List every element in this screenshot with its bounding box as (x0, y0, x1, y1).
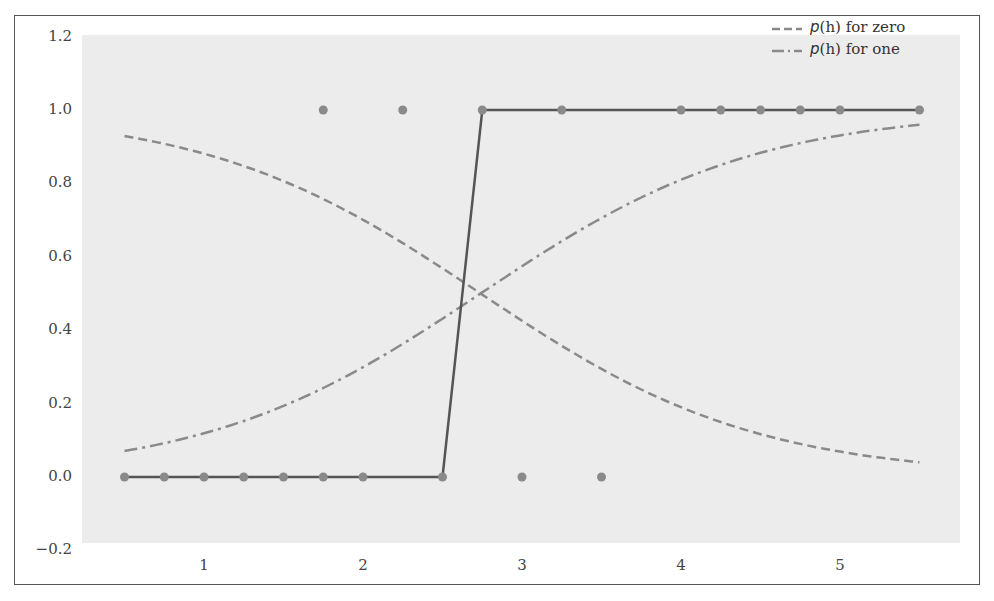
data-point (518, 473, 527, 482)
data-point (319, 473, 328, 482)
x-tick-label: 5 (825, 556, 855, 574)
data-point (756, 106, 765, 115)
y-tick-label: 0.8 (12, 173, 72, 191)
p-one-curve (125, 125, 920, 451)
data-point (438, 473, 447, 482)
data-point (677, 106, 686, 115)
data-point (398, 106, 407, 115)
x-tick-label: 2 (348, 556, 378, 574)
x-tick-label: 4 (666, 556, 696, 574)
data-point (359, 473, 368, 482)
x-tick-label: 3 (507, 556, 537, 574)
data-point (120, 473, 129, 482)
y-tick-label: 1.2 (12, 27, 72, 45)
legend-label-one: p(h) for one (810, 40, 900, 58)
y-tick-label: −0.2 (12, 540, 72, 558)
y-tick-label: 0.0 (12, 467, 72, 485)
x-tick-label: 1 (189, 556, 219, 574)
data-point (915, 106, 924, 115)
y-tick-label: 1.0 (12, 100, 72, 118)
y-tick-label: 0.4 (12, 320, 72, 338)
data-point (239, 473, 248, 482)
legend-label-zero: p(h) for zero (810, 18, 905, 36)
data-point (279, 473, 288, 482)
dashed-line-icon (768, 18, 808, 38)
p-zero-curve (125, 136, 920, 462)
data-point (836, 106, 845, 115)
data-point (716, 106, 725, 115)
data-point (796, 106, 805, 115)
data-point (319, 106, 328, 115)
chart-canvas (0, 0, 994, 601)
data-point (200, 473, 209, 482)
y-tick-label: 0.6 (12, 247, 72, 265)
y-tick-label: 0.2 (12, 394, 72, 412)
data-point (557, 106, 566, 115)
data-point (160, 473, 169, 482)
data-point (597, 473, 606, 482)
dash-dot-line-icon (768, 40, 808, 60)
data-point (478, 106, 487, 115)
